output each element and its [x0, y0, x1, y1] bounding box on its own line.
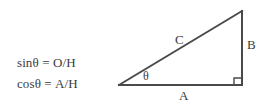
adjacent-label: A [179, 88, 189, 103]
hypotenuse-label: C [175, 32, 184, 47]
right-angle-marker-icon [234, 78, 241, 85]
trig-diagram-figure: sinθ = O/H cosθ = A/H C B A θ [0, 0, 263, 106]
theta-angle-label: θ [143, 69, 149, 83]
opposite-label: B [247, 37, 256, 52]
hypotenuse-side-line [119, 11, 242, 85]
right-triangle-graphic: C B A θ [0, 0, 263, 106]
